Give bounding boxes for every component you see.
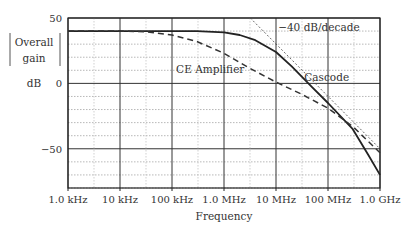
y-axis-label-line: Overall (15, 36, 54, 48)
x-tick-label: 1.0 kHz (48, 194, 87, 205)
annotations: −40 dB/decadeCE AmplifierCascode (176, 21, 360, 83)
x-tick-label: 10 kHz (102, 194, 138, 205)
annotation-label: CE Amplifier (176, 63, 245, 75)
frequency-response-chart: 500−50 1.0 kHz10 kHz100 kHz1.0 MHz10 MHz… (0, 0, 417, 234)
grid (68, 18, 380, 188)
x-axis-ticks: 1.0 kHz10 kHz100 kHz1.0 MHz10 MHz100 MHz… (48, 188, 400, 205)
y-tick-label: −50 (41, 144, 62, 155)
y-axis-label-line: gain (22, 52, 45, 64)
annotation-label: −40 dB/decade (278, 21, 359, 33)
x-tick-label: 100 kHz (151, 194, 193, 205)
y-axis-label: OverallgaindB (10, 33, 60, 89)
x-axis-label: Frequency (196, 210, 253, 222)
y-axis-label-line: dB (27, 77, 42, 89)
y-tick-label: 0 (56, 78, 62, 89)
x-tick-label: 1.0 MHz (202, 194, 245, 205)
x-tick-label: 1.0 GHz (359, 194, 400, 205)
y-tick-label: 50 (49, 13, 62, 24)
y-axis-ticks: 500−50 (41, 13, 62, 155)
x-tick-label: 100 MHz (305, 194, 352, 205)
x-tick-label: 10 MHz (256, 194, 296, 205)
annotation-label: Cascode (304, 71, 349, 83)
